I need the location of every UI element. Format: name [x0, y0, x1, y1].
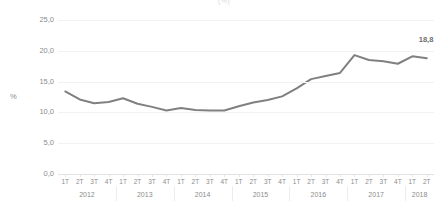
x-axis-tick-mark — [427, 174, 428, 177]
x-axis-tick-mark — [80, 174, 81, 177]
plot-area — [58, 20, 434, 174]
x-axis-tick-mark — [123, 174, 124, 177]
gridline — [58, 82, 434, 83]
x-axis-tick-mark — [398, 174, 399, 177]
x-axis-tick-mark — [109, 174, 110, 177]
x-axis-tick-mark — [152, 174, 153, 177]
x-axis-tick-mark — [326, 174, 327, 177]
year-separator — [405, 186, 406, 201]
x-axis-year-label: 2016 — [289, 190, 347, 200]
year-separator — [232, 186, 233, 201]
gridline — [58, 51, 434, 52]
x-axis-tick-mark — [412, 174, 413, 177]
x-axis-year-label: 2015 — [232, 190, 290, 200]
x-axis-tick-mark — [224, 174, 225, 177]
x-axis-tick-mark — [340, 174, 341, 177]
x-axis-tick-mark — [138, 174, 139, 177]
x-axis-tick-mark — [94, 174, 95, 177]
y-axis-tick-label: 15,0 — [8, 78, 54, 86]
x-axis-tick-mark — [210, 174, 211, 177]
x-axis-line — [58, 174, 434, 175]
x-axis-tick-mark — [369, 174, 370, 177]
year-separator — [289, 186, 290, 201]
gridline — [58, 112, 434, 113]
x-axis-tick-mark — [354, 174, 355, 177]
y-axis-tick-label: 5,0 — [8, 139, 54, 147]
x-axis-tick-mark — [195, 174, 196, 177]
line-chart: (%) 0,05,010,015,020,025,0 % 1T2T3T4T1T2… — [0, 0, 448, 221]
gridline — [58, 143, 434, 144]
x-axis-tick-mark — [166, 174, 167, 177]
x-axis-tick-mark — [383, 174, 384, 177]
x-axis-year-labels: 2012201320142015201620172018 — [58, 190, 434, 204]
x-axis-tick-mark — [65, 174, 66, 177]
series-line — [58, 20, 434, 174]
x-axis-tick-mark — [253, 174, 254, 177]
x-axis-tick-mark — [311, 174, 312, 177]
x-axis-year-label: 2013 — [116, 190, 174, 200]
y-axis-tick-label: 0,0 — [8, 170, 54, 178]
x-axis-tick-label: 2T — [417, 177, 437, 186]
y-axis-tick-label: 10,0 — [8, 108, 54, 116]
y-axis: 0,05,010,015,020,025,0 — [0, 0, 54, 221]
gridline — [58, 20, 434, 21]
x-axis-year-label: 2012 — [58, 190, 116, 200]
y-axis-tick-label: 20,0 — [8, 47, 54, 55]
x-axis-year-label: 2014 — [174, 190, 232, 200]
x-axis-year-label: 2018 — [405, 190, 434, 200]
year-separator — [174, 186, 175, 201]
y-axis-tick-label: 25,0 — [8, 16, 54, 24]
x-axis-quarter-ticks: 1T2T3T4T1T2T3T4T1T2T3T4T1T2T3T4T1T2T3T4T… — [58, 177, 434, 191]
x-axis-tick-mark — [239, 174, 240, 177]
x-axis-tick-mark — [181, 174, 182, 177]
year-separator — [347, 186, 348, 201]
x-axis-tick-mark — [282, 174, 283, 177]
year-separator — [116, 186, 117, 201]
x-axis-tick-mark — [297, 174, 298, 177]
end-value-label: 18,8 — [419, 35, 434, 44]
y-axis-label: % — [10, 92, 17, 101]
chart-title: (%) — [0, 0, 448, 6]
x-axis-tick-mark — [268, 174, 269, 177]
x-axis-year-label: 2017 — [347, 190, 405, 200]
